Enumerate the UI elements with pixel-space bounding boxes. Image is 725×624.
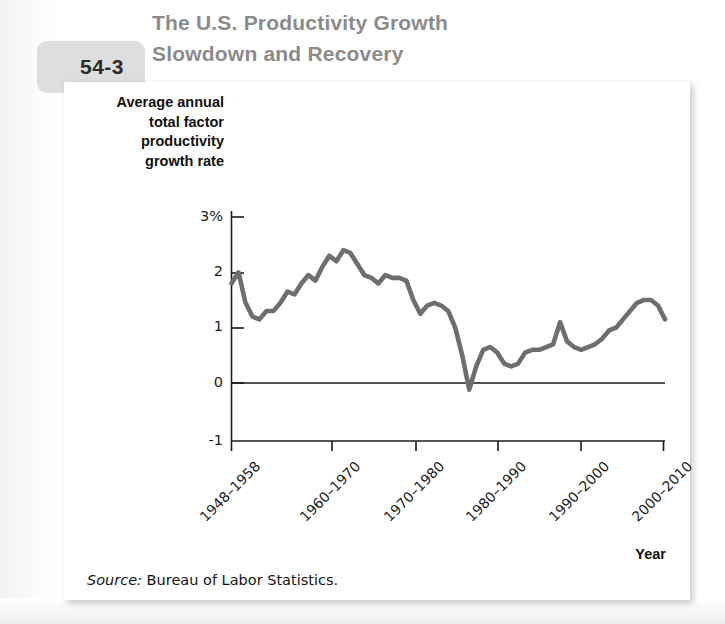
source-label: Source: xyxy=(87,572,142,588)
figure-page: 54-3 FIGURE The U.S. Productivity Growth… xyxy=(0,0,725,624)
productivity-growth-line xyxy=(232,250,666,389)
figure-title-line-1: The U.S. Productivity Growth xyxy=(152,7,572,38)
source-note: Source: Bureau of Labor Statistics. xyxy=(87,572,338,588)
chart-area: Average annual total factor productivity… xyxy=(64,82,690,600)
x-axis-title: Year xyxy=(635,546,666,562)
figure-title-line-2: Slowdown and Recovery xyxy=(152,38,572,69)
page-shading-left xyxy=(0,0,64,624)
page-title: The U.S. Productivity Growth Slowdown an… xyxy=(152,7,572,69)
figure-word-label: FIGURE xyxy=(0,0,2,48)
figure-card: Average annual total factor productivity… xyxy=(64,82,690,600)
page-shading-bottom xyxy=(0,598,725,624)
source-text: Bureau of Labor Statistics. xyxy=(142,572,338,588)
